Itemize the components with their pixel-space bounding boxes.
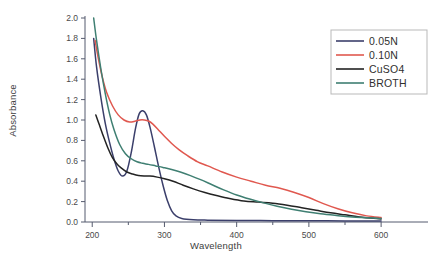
x-tick-label: 300 — [157, 230, 171, 240]
chart-plot-area: 0.00.20.40.60.81.01.21.41.61.82.0 200300… — [0, 0, 432, 266]
chart-container: 0.00.20.40.60.81.01.21.41.61.82.0 200300… — [0, 0, 432, 266]
y-tick-label: 1.0 — [66, 115, 78, 125]
y-tick-label: 0.0 — [66, 217, 78, 227]
chart-legend: 0.05N0.10NCuSO4BROTH — [331, 30, 427, 94]
x-tick-label: 500 — [302, 230, 316, 240]
x-tick-label: 200 — [85, 230, 99, 240]
y-tick-label: 0.6 — [66, 156, 78, 166]
legend-label-cuso4: CuSO4 — [369, 63, 404, 75]
x-axis: 200300400500600 — [85, 222, 428, 240]
y-tick-label: 0.4 — [66, 176, 78, 186]
legend-label-0-10n: 0.10N — [369, 49, 398, 61]
y-tick-label: 0.8 — [66, 135, 78, 145]
y-tick-label: 1.6 — [66, 54, 78, 64]
y-tick-label: 1.8 — [66, 33, 78, 43]
legend-label-broth: BROTH — [369, 77, 407, 89]
x-tick-label: 400 — [230, 230, 244, 240]
x-tick-label: 600 — [374, 230, 388, 240]
series-line-cuso4 — [96, 115, 381, 219]
y-tick-label: 2.0 — [66, 13, 78, 23]
y-tick-label: 1.4 — [66, 74, 78, 84]
y-axis-title: Absorbance — [7, 71, 18, 151]
legend-label-0-05n: 0.05N — [369, 35, 398, 47]
y-tick-label: 0.2 — [66, 197, 78, 207]
y-axis: 0.00.20.40.60.81.01.21.41.61.82.0 — [66, 13, 85, 227]
x-axis-title: Wavelength — [0, 240, 432, 251]
y-tick-label: 1.2 — [66, 95, 78, 105]
